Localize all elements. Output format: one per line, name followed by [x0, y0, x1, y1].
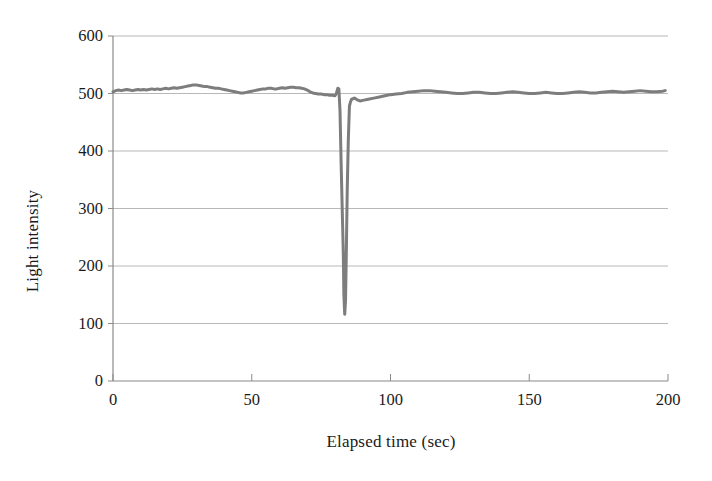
x-axis-title: Elapsed time (sec): [113, 432, 669, 452]
gridlines: [113, 36, 668, 324]
data-series-line: [113, 85, 665, 314]
chart-figure: Light intensity 0 100 200 300 400 500 60…: [0, 0, 712, 481]
plot-area: [0, 0, 712, 481]
